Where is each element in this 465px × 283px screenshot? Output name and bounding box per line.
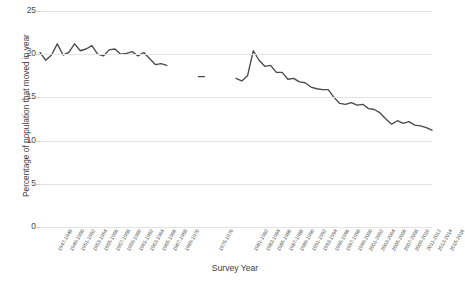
gridline	[40, 97, 432, 98]
y-tick-label: 10	[8, 136, 36, 144]
y-tick-label: 5	[8, 179, 36, 187]
x-tick-label: 1975-1976	[217, 228, 234, 252]
x-axis-ticks: 1947-19481949-19501951-19521953-19541955…	[40, 228, 432, 264]
y-tick-label: 20	[8, 49, 36, 57]
y-tick-label: 15	[8, 92, 36, 100]
plot-area	[40, 11, 432, 227]
gridline	[40, 141, 432, 142]
gridline	[40, 184, 432, 185]
data-series-line	[40, 11, 432, 227]
y-tick-label: 25	[8, 6, 36, 14]
y-axis-ticks: 0510152025	[0, 11, 36, 227]
x-axis-title: Survey Year	[36, 263, 434, 273]
gridline	[40, 54, 432, 55]
gridline	[40, 11, 432, 12]
y-tick-label: 0	[8, 222, 36, 230]
series-segment	[236, 51, 432, 130]
